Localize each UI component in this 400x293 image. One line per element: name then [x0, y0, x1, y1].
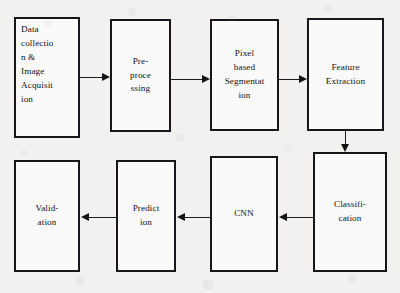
edge-segmentation-to-feature-arrowhead [299, 75, 307, 83]
node-data-collection[interactable]: Data collectio n & Image Acquisit ion [14, 17, 80, 138]
node-prediction[interactable]: Predict ion [116, 160, 176, 272]
edge-data-to-pre [80, 77, 103, 78]
node-classification-label: Classifi- cation [331, 198, 369, 226]
node-cnn[interactable]: CNN [210, 156, 278, 272]
node-cnn-label: CNN [231, 207, 257, 221]
node-feature-extraction[interactable]: Feature Extraction [307, 18, 384, 131]
node-pre-processing[interactable]: Pre- proce ssing [110, 19, 171, 132]
edge-feature-to-classification-arrowhead [341, 144, 349, 152]
node-pixel-based-segmentation[interactable]: Pixel based Segmentat ion [210, 19, 279, 131]
edge-classification-to-cnn [286, 217, 314, 218]
node-prediction-label: Predict ion [130, 202, 163, 230]
node-validation-label: Valid- ation [32, 202, 61, 230]
node-pre-processing-label: Pre- proce ssing [127, 55, 154, 97]
edge-prediction-to-validation [88, 217, 117, 218]
node-feature-extraction-label: Feature Extraction [323, 61, 368, 89]
edge-prediction-to-validation-arrowhead [81, 213, 89, 221]
edge-classification-to-cnn-arrowhead [279, 213, 287, 221]
node-pixel-based-segmentation-label: Pixel based Segmentat ion [222, 47, 268, 103]
edge-cnn-to-prediction [184, 217, 211, 218]
node-data-collection-label: Data collectio n & Image Acquisit ion [16, 19, 56, 107]
flowchart-canvas: Data collectio n & Image Acquisit ion Pr… [0, 0, 400, 293]
edge-pre-to-segmentation [171, 79, 203, 80]
edge-pre-to-segmentation-arrowhead [202, 75, 210, 83]
node-validation[interactable]: Valid- ation [14, 160, 80, 272]
edge-data-to-pre-arrowhead [102, 73, 110, 81]
edge-cnn-to-prediction-arrowhead [177, 213, 185, 221]
node-classification[interactable]: Classifi- cation [313, 152, 387, 272]
edge-segmentation-to-feature [279, 79, 300, 80]
